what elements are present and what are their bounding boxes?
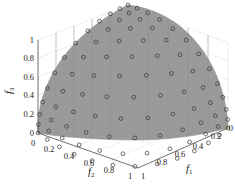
svg-text:0.2: 0.2 xyxy=(44,144,55,154)
z-tick-labels: 0 0.2 0.4 0.6 0.8 1 xyxy=(23,35,34,138)
svg-text:0: 0 xyxy=(229,123,233,133)
svg-text:0.4: 0.4 xyxy=(64,151,75,161)
f3-axis-label: f3 xyxy=(2,87,16,94)
svg-text:0.2: 0.2 xyxy=(23,109,34,119)
svg-text:0.6: 0.6 xyxy=(175,149,186,159)
reference-point xyxy=(145,151,149,155)
reference-point xyxy=(98,149,102,153)
f2-tick-labels: 0 0.2 0.4 0.6 0.8 1 xyxy=(31,138,132,181)
reference-point xyxy=(58,145,62,149)
svg-text:1: 1 xyxy=(30,35,34,45)
pareto-front-3d-plot: 0 0.2 0.4 0.6 0.8 1 0 0.2 0.4 0.6 0.8 1 … xyxy=(0,0,235,188)
svg-text:0.2: 0.2 xyxy=(211,131,222,141)
reference-point xyxy=(168,147,172,151)
reference-point xyxy=(188,140,192,144)
svg-text:0: 0 xyxy=(31,138,35,148)
svg-text:0.8: 0.8 xyxy=(23,53,34,63)
svg-text:0.4: 0.4 xyxy=(193,141,204,151)
pareto-surface xyxy=(38,5,228,140)
svg-text:0.6: 0.6 xyxy=(23,72,34,82)
svg-text:1: 1 xyxy=(141,171,145,181)
reference-point xyxy=(207,141,211,145)
f1-axis-label: f1 xyxy=(186,162,193,176)
svg-text:0.8: 0.8 xyxy=(157,157,168,167)
svg-text:1: 1 xyxy=(128,171,132,181)
reference-point xyxy=(46,138,50,142)
svg-text:0: 0 xyxy=(30,128,34,138)
reference-point xyxy=(121,152,125,156)
svg-text:0.4: 0.4 xyxy=(23,90,34,100)
svg-text:0.8: 0.8 xyxy=(104,165,115,175)
